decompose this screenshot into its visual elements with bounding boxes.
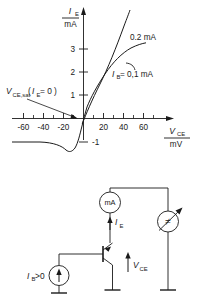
y-axis-label: I E mA (62, 6, 79, 29)
vce-sat-leader-line (27, 99, 74, 117)
bipolar-transistor-icon (88, 243, 113, 290)
base-current-label: I B >0 (27, 271, 45, 283)
vce-sat-leader-arrowhead (71, 114, 79, 119)
circuit-area: mA I E (27, 188, 183, 293)
x-axis-label: V CE mV (164, 126, 190, 149)
vce-voltage-label: V CE (133, 260, 148, 272)
base-current-name: I (27, 271, 30, 281)
variable-voltage-source-icon: ≠ (158, 208, 183, 233)
chart-area: -60 -40 -20 20 40 60 3 2 1 -1 I E mA V C… (6, 6, 190, 152)
x-axis-arrowhead (166, 116, 174, 121)
figure-container: -60 -40 -20 20 40 60 3 2 1 -1 I E mA V C… (0, 0, 197, 305)
x-tick-label-3: 20 (99, 123, 109, 132)
y-tick-label-2: 2 (70, 68, 75, 77)
base-wire (59, 254, 88, 265)
x-tick-label-1: -40 (38, 123, 50, 132)
x-tick-label-4: 40 (119, 123, 129, 132)
y-tick-label-3: 3 (70, 45, 75, 54)
curve-label-0p2ma: 0.2 mA (130, 33, 156, 42)
transistor-characteristic-figure: -60 -40 -20 20 40 60 3 2 1 -1 I E mA V C… (0, 0, 197, 305)
y-axis-name-sub: E (75, 11, 79, 17)
y-axis-name: I (69, 6, 72, 16)
ammeter-icon: mA (100, 192, 121, 213)
vce-voltage-arrow (125, 252, 130, 272)
y-axis-unit: mA (64, 20, 77, 29)
x-axis-minor-ticks (34, 115, 154, 119)
curve-label-ib-name: I (112, 69, 115, 79)
curve-label-leader (126, 63, 135, 70)
vce-sat-paren-open: ( (28, 86, 31, 96)
vce-sat-i: I (32, 86, 35, 96)
emitter-current-name: I (115, 217, 118, 227)
x-tick-label-0: -60 (18, 123, 30, 132)
x-axis-name-sub: CE (177, 131, 185, 137)
x-tick-label-5: 60 (139, 123, 149, 132)
x-axis-unit: mV (170, 140, 183, 149)
ammeter-label: mA (104, 198, 115, 207)
curve-ib-0p2ma (82, 10, 130, 124)
y-tick-label-1: 1 (70, 91, 75, 100)
x-axis-name: V (169, 126, 176, 136)
vce-sat-paren-close: ) (54, 86, 57, 96)
emitter-current-sub: E (120, 223, 124, 229)
vce-sub: CE (140, 266, 148, 272)
curve-label-ib-value: = 0,1 mA (120, 70, 154, 79)
vce-sat-eq: = 0 (40, 86, 52, 96)
vce-sat-annotation: V CE,sat ( I E = 0 ) (6, 86, 78, 119)
curve-ib-0p1ma (12, 43, 146, 152)
emitter-current-label: I E (115, 217, 124, 229)
base-current-condition: >0 (35, 271, 45, 281)
curve-label-ib: I B = 0,1 mA (112, 69, 154, 80)
current-source-icon (49, 266, 69, 286)
x-tick-label-2: -20 (58, 123, 70, 132)
y-tick-label-neg1: -1 (92, 138, 100, 147)
emitter-current-arrow (107, 217, 112, 231)
y-axis-arrowhead (81, 7, 86, 15)
